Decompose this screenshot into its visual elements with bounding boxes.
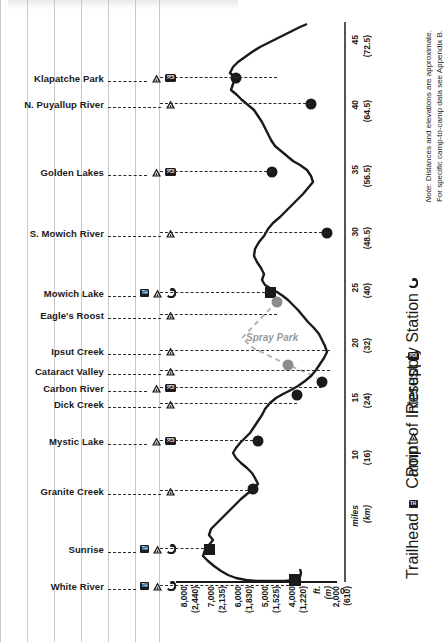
- leader-dots: [108, 100, 161, 108]
- legend-item-camp[interactable]: Camp: [404, 432, 422, 489]
- stop-label: Eagle's Roost: [0, 310, 104, 321]
- distance-tick: (56.5): [362, 165, 372, 189]
- leader-dots: [108, 367, 161, 375]
- stop-marker-n-puyallup-river: [306, 99, 317, 110]
- stop-label: White River: [0, 581, 104, 592]
- stop-row-golden-lakes[interactable]: Golden LakesPOI: [0, 165, 176, 179]
- stop-row-dick-creek[interactable]: Dick Creek: [0, 397, 176, 411]
- stop-icons: TH: [140, 581, 176, 591]
- elevation-tick: (2,135): [217, 586, 227, 615]
- poi-icon: POI: [165, 437, 176, 445]
- resupply-icon: [166, 544, 176, 554]
- stop-marker-carbon-river: [317, 377, 328, 388]
- elevation-tick: 5,000: [260, 586, 270, 609]
- stop-marker-golden-lakes: [267, 167, 278, 178]
- elevation-tick-text: (1,830): [244, 586, 254, 613]
- stop-row-granite-creek[interactable]: Granite Creek: [0, 484, 176, 498]
- camp-icon: [152, 545, 163, 554]
- stop-marker-mowich-lake: [265, 287, 276, 298]
- stop-row-mowich-lake[interactable]: Mowich LakeTH: [0, 286, 176, 300]
- stop-marker-s-mowich-river: [322, 228, 333, 239]
- chart-note: Note: Distances and elevations are appro…: [420, 30, 442, 230]
- camp-icon: [151, 437, 162, 446]
- stop-row-cataract-valley[interactable]: Cataract Valley: [0, 364, 176, 378]
- camp-icon: [165, 367, 176, 376]
- elevation-tick: 4,000: [287, 586, 297, 609]
- elevation-tick: 7,000: [206, 586, 216, 609]
- leader-line-to-marker: [160, 548, 204, 549]
- distance-tick: 25: [350, 283, 360, 294]
- stop-label: Carbon River: [0, 383, 104, 394]
- distance-tick-text: (32): [362, 338, 372, 353]
- leader-dots: [108, 74, 147, 82]
- distance-tick-text: 45: [350, 35, 360, 44]
- stop-row-s-mowich-river[interactable]: S. Mowich River: [0, 226, 176, 240]
- elevation-tick: (1,830): [244, 586, 254, 615]
- legend-label: Camp: [404, 446, 422, 489]
- distance-axis-line: [344, 22, 346, 582]
- elevation-tick-text: (2,440): [190, 586, 200, 613]
- leader-line-to-marker: [160, 350, 330, 351]
- leader-dots: [108, 384, 147, 392]
- distance-tick: (40): [362, 283, 372, 300]
- poi-icon: POI: [165, 384, 176, 392]
- stop-row-eagle-s-roost[interactable]: Eagle's Roost: [0, 308, 176, 322]
- stop-row-mystic-lake[interactable]: Mystic LakePOI: [0, 434, 176, 448]
- leader-line-to-marker: [160, 490, 253, 491]
- stop-row-ipsut-creek[interactable]: Ipsut Creek: [0, 344, 176, 358]
- elevation-profile-line: [203, 24, 327, 581]
- camp-icon: [152, 289, 163, 298]
- distance-tick: 10: [350, 450, 360, 461]
- stop-icons: [165, 311, 176, 320]
- distance-tick-text: 40: [350, 100, 360, 109]
- elevation-tick-text: 8,000: [179, 586, 189, 607]
- stop-row-klapatche-park[interactable]: Klapatche ParkPOI: [0, 71, 176, 85]
- distance-tick: (32): [362, 338, 372, 355]
- distance-tick: (24): [362, 393, 372, 410]
- distance-tick-text: 30: [350, 227, 360, 236]
- stop-icons: TH: [140, 544, 176, 554]
- stop-row-white-river[interactable]: White RiverTH: [0, 579, 176, 593]
- stop-row-carbon-river[interactable]: Carbon RiverPOI: [0, 381, 176, 395]
- stop-icons: TH: [140, 288, 176, 298]
- camp-icon: [152, 582, 163, 591]
- distance-tick: 15: [350, 393, 360, 404]
- stop-label: Sunrise: [0, 544, 104, 555]
- trailhead-icon: TH: [140, 582, 149, 590]
- stop-label: Golden Lakes: [0, 167, 104, 178]
- leader-dots: [108, 168, 147, 176]
- distance-tick-text: (64.5): [362, 100, 372, 122]
- stop-label: N. Puyallup River: [0, 99, 104, 110]
- leader-line-to-marker: [160, 440, 258, 441]
- distance-tick-text: miles: [350, 505, 360, 527]
- stop-marker-granite-creek: [248, 484, 259, 495]
- poi-icon: POI: [165, 74, 176, 82]
- distance-tick-text: 15: [350, 393, 360, 402]
- distance-tick-text: 10: [350, 450, 360, 459]
- distance-tick-text: (16): [362, 450, 372, 465]
- resupply-icon: [166, 288, 176, 298]
- stop-label: Klapatche Park: [0, 73, 104, 84]
- distance-tick: (km): [362, 505, 372, 525]
- elevation-tick-text: 6,000: [233, 586, 243, 607]
- elevation-tick: 8,000: [179, 586, 189, 609]
- camp-icon: [165, 347, 176, 356]
- stop-label: Mowich Lake: [0, 288, 104, 299]
- elevation-tick-text: (1,220): [298, 586, 308, 613]
- resupply-icon: [408, 278, 418, 288]
- stop-icons: [165, 367, 176, 376]
- stop-row-n-puyallup-river[interactable]: N. Puyallup River: [0, 97, 176, 111]
- elevation-tick: ft.: [312, 586, 322, 596]
- distance-tick: (16): [362, 450, 372, 467]
- distance-tick: miles: [350, 505, 360, 529]
- stop-row-sunrise[interactable]: SunriseTH: [0, 542, 176, 556]
- distance-tick-text: (km): [362, 505, 372, 523]
- elevation-tick: (1,220): [298, 586, 308, 615]
- leader-line-to-marker: [160, 387, 322, 388]
- elevation-tick-text: ft.: [312, 586, 322, 594]
- camp-icon: [408, 432, 419, 441]
- legend-item-trailhead[interactable]: THTrailhead: [404, 500, 422, 579]
- resupply-icon: [166, 581, 176, 591]
- camp-icon: [151, 168, 162, 177]
- distance-tick: 30: [350, 227, 360, 238]
